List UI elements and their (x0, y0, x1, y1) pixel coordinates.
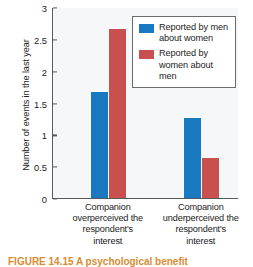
y-axis-tick-label: 0.5 (34, 162, 47, 173)
bar-women-about-men-group-2 (202, 158, 219, 198)
y-axis-tick-mark (53, 198, 57, 199)
x-axis-label-line: Companion (56, 202, 160, 213)
legend-entry-1: Reported by men about women (139, 22, 231, 44)
x-axis-group-label-1: Companionoverperceived therespondent'sin… (56, 202, 160, 247)
x-axis-label-line: interest (149, 236, 253, 247)
y-axis-tick-label: 3 (42, 3, 47, 14)
legend-swatch-red (139, 50, 154, 59)
x-axis-label-line: underperceived the (149, 213, 253, 224)
y-axis-tick-mark (53, 39, 57, 40)
x-axis-label-line: Companion (149, 202, 253, 213)
bar-men-about-women-group-2 (184, 118, 201, 198)
x-axis-group-label-2: Companionunderperceived therespondent'si… (149, 202, 253, 247)
bar-women-about-men-group-1 (109, 29, 126, 198)
figure-caption: FIGURE 14.15 A psychological benefit (8, 256, 240, 267)
x-axis-label-line: respondent's (149, 224, 253, 235)
legend-label: Reported by women about men (159, 48, 231, 82)
legend-entry-2: Reported by women about men (139, 48, 231, 82)
x-axis-label-line: respondent's (56, 224, 160, 235)
x-axis-label-line: interest (56, 236, 160, 247)
y-axis-tick-mark (53, 7, 57, 8)
chart-legend: Reported by men about womenReported by w… (132, 16, 236, 88)
y-axis-tick-mark (53, 103, 57, 104)
y-axis-tick-mark (53, 167, 57, 168)
y-axis-tick-label: 2.5 (34, 34, 47, 45)
legend-label: Reported by men about women (159, 22, 231, 44)
y-axis-tick-mark (53, 135, 57, 136)
y-axis-tick-mark (53, 71, 57, 72)
y-axis-title: Number of events in the last year (21, 5, 31, 205)
y-axis-tick-label: 2 (42, 66, 47, 77)
bar-men-about-women-group-1 (91, 92, 108, 198)
legend-swatch-blue (139, 24, 154, 33)
y-axis-tick-label: 0 (42, 194, 47, 205)
y-axis-tick-label: 1.5 (34, 98, 47, 109)
x-axis-label-line: overperceived the (56, 213, 160, 224)
y-axis-tick-label: 1 (42, 130, 47, 141)
